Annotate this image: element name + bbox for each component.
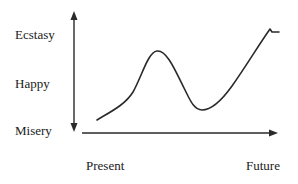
label-misery: Misery <box>15 124 52 137</box>
label-happy: Happy <box>15 77 50 90</box>
arrow-down-icon <box>71 123 78 132</box>
label-future: Future <box>246 159 280 172</box>
trajectory-curve <box>97 29 279 120</box>
arrow-up-icon <box>71 11 78 20</box>
label-ecstasy: Ecstasy <box>15 28 55 41</box>
emotion-diagram: Ecstasy Happy Misery Present Future <box>0 0 298 184</box>
arrow-right-icon <box>269 130 278 137</box>
label-present: Present <box>86 159 124 172</box>
x-axis <box>82 130 278 137</box>
y-axis <box>71 11 78 132</box>
